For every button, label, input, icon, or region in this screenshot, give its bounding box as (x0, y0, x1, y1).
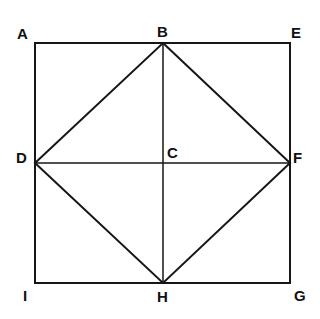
vertex-label-h: H (157, 289, 168, 304)
vertex-label-i: I (23, 288, 27, 303)
vertex-label-a: A (17, 26, 28, 41)
vertex-label-e: E (291, 25, 301, 40)
diagram-background (0, 0, 320, 319)
vertex-label-g: G (294, 288, 306, 303)
vertex-label-f: F (293, 150, 302, 165)
vertex-label-d: D (16, 150, 27, 165)
vertex-label-c: C (167, 145, 178, 160)
geometry-diagram: A B E D C F I H G (0, 0, 320, 319)
vertex-label-b: B (157, 24, 168, 39)
geometry-canvas (0, 0, 320, 319)
